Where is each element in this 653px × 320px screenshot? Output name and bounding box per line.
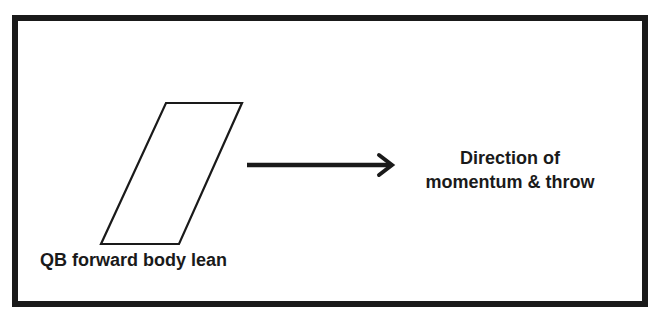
qb-body-parallelogram-icon	[101, 103, 242, 244]
direction-label-line1: Direction of	[404, 146, 616, 170]
arrow-right-icon	[247, 155, 392, 175]
body-lean-label: QB forward body lean	[40, 248, 227, 272]
direction-label-line2: momentum & throw	[404, 170, 616, 194]
direction-label: Direction of momentum & throw	[404, 146, 616, 194]
